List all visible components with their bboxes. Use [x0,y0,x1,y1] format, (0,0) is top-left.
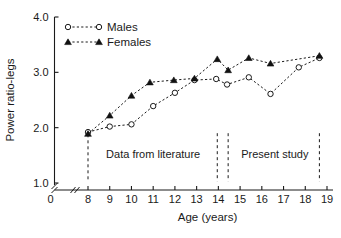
x-tick-label-13: 13 [191,193,203,205]
x-tick-label-10: 10 [125,193,137,205]
legend: MalesFemales [65,21,152,48]
data-point-males-4 [172,90,177,95]
legend-marker-females-1 [96,39,103,45]
origin-tick-label: 0 [47,193,53,205]
x-axis-title: Age (years) [178,211,238,223]
x-axis-tick-labels: 8910111213141516171819 [85,193,333,205]
data-point-females-9 [267,60,274,66]
data-point-males-9 [268,91,273,96]
x-tick-label-17: 17 [277,193,289,205]
data-point-females-2 [128,92,135,98]
y-axis-tick-labels: 1.02.03.04.0 [33,11,48,189]
data-point-males-1 [107,124,112,129]
x-tick-label-19: 19 [321,193,333,205]
data-point-females-10 [316,53,323,59]
legend-label-females: Females [107,36,151,48]
x-tick-label-16: 16 [256,193,268,205]
y-axis-ticks [55,17,59,183]
series-males [85,55,322,135]
y-axis-title: Power ratio-legs [4,58,16,141]
y-tick-label-4.0: 4.0 [33,11,48,23]
x-axis-ticks [88,186,327,190]
series-line-females [88,56,319,134]
x-tick-label-8: 8 [85,193,91,205]
data-point-males-10 [296,65,301,70]
x-tick-label-11: 11 [147,193,158,205]
legend-label-males: Males [107,21,138,33]
data-point-males-8 [246,75,251,80]
legend-marker-females-0 [65,39,72,45]
data-point-males-3 [150,103,155,108]
data-point-males-7 [224,82,229,87]
legend-marker-males-0 [65,24,70,29]
data-point-females-3 [147,79,154,85]
data-point-females-6 [214,56,221,62]
chart-figure: 1.02.03.04.0 8910111213141516171819 0 Ag… [0,0,341,238]
annotation-label-1: Present study [241,148,309,160]
y-tick-label-1.0: 1.0 [33,177,48,189]
x-tick-label-12: 12 [169,193,181,205]
y-tick-label-2.0: 2.0 [33,122,48,134]
data-series [85,53,323,137]
data-point-males-2 [129,122,134,127]
region-annotations: Data from literaturePresent study [106,148,309,160]
series-females [85,53,323,137]
series-line-males [88,58,319,132]
data-point-males-6 [213,76,218,81]
x-tick-label-18: 18 [299,193,311,205]
data-point-females-8 [245,55,252,61]
y-tick-label-3.0: 3.0 [33,66,48,78]
annotation-label-0: Data from literature [106,148,200,160]
x-tick-label-9: 9 [107,193,113,205]
x-tick-label-14: 14 [212,193,224,205]
legend-marker-males-1 [96,24,101,29]
axes [52,17,334,193]
power-ratio-legs-line-chart: 1.02.03.04.0 8910111213141516171819 0 Ag… [0,0,341,238]
x-tick-label-15: 15 [234,193,246,205]
axis-break-marks [52,183,80,193]
